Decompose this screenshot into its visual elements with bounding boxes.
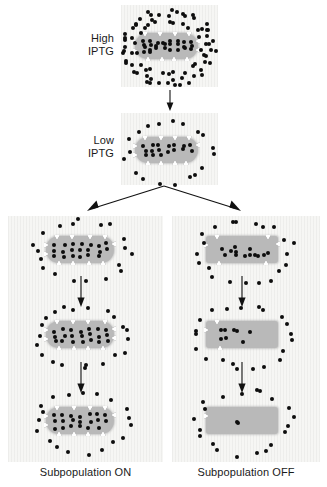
iptg-dot-external bbox=[201, 133, 205, 137]
iptg-dot-internal bbox=[61, 419, 65, 423]
iptg-dot-internal bbox=[97, 426, 101, 430]
iptg-dot-external bbox=[211, 146, 215, 150]
permease-transporter-icon bbox=[85, 320, 91, 325]
permease-transporter-icon bbox=[44, 336, 49, 342]
iptg-dot-external bbox=[289, 332, 293, 336]
iptg-dot-external bbox=[139, 31, 143, 35]
iptg-dot-external bbox=[284, 263, 288, 267]
iptg-dot-external bbox=[104, 277, 108, 281]
iptg-dot-external bbox=[171, 119, 175, 123]
permease-transporter-icon bbox=[54, 320, 60, 325]
permease-transporter-icon bbox=[70, 260, 76, 265]
iptg-dot-external bbox=[170, 8, 174, 12]
iptg-dot-external bbox=[282, 238, 286, 242]
iptg-dot-internal bbox=[54, 339, 58, 343]
iptg-dot-external bbox=[178, 83, 182, 87]
permease-transporter-icon bbox=[159, 56, 165, 61]
permease-transporter-icon bbox=[142, 136, 148, 141]
iptg-dot-external bbox=[66, 450, 70, 454]
iptg-dot-external bbox=[126, 337, 130, 341]
iptg-dot-external bbox=[37, 418, 41, 422]
permease-transporter-icon bbox=[100, 431, 106, 436]
iptg-dot-external bbox=[144, 68, 148, 72]
iptg-dot-external bbox=[39, 404, 43, 408]
iptg-dot-external bbox=[123, 32, 127, 36]
iptg-dot-external bbox=[122, 157, 126, 161]
iptg-dot-internal bbox=[89, 243, 93, 247]
permease-transporter-icon bbox=[102, 320, 108, 325]
iptg-dot-external bbox=[137, 130, 141, 134]
permease-transporter-icon bbox=[54, 406, 60, 411]
iptg-dot-external bbox=[225, 307, 229, 311]
iptg-dot-external bbox=[157, 81, 161, 85]
permease-transporter-icon bbox=[102, 235, 108, 240]
iptg-dot-internal bbox=[182, 40, 186, 44]
iptg-dot-internal bbox=[52, 249, 56, 253]
iptg-dot-external bbox=[109, 398, 113, 402]
iptg-dot-external bbox=[124, 61, 128, 65]
iptg-dot-external bbox=[99, 223, 103, 227]
panel-subpopulation-off bbox=[172, 216, 320, 462]
iptg-dot-external bbox=[208, 61, 212, 65]
on-generation-arrow-1 bbox=[74, 276, 88, 308]
iptg-dot-internal bbox=[97, 340, 101, 344]
permease-transporter-icon bbox=[71, 431, 77, 436]
iptg-dot-external bbox=[41, 266, 45, 270]
iptg-dot-external bbox=[36, 249, 40, 253]
panel-low-iptg bbox=[121, 113, 218, 185]
iptg-dot-internal bbox=[106, 339, 110, 343]
permease-transporter-icon bbox=[186, 32, 192, 37]
iptg-dot-external bbox=[207, 266, 211, 270]
iptg-dot-internal bbox=[241, 340, 245, 344]
iptg-dot-external bbox=[183, 14, 187, 18]
iptg-dot-external bbox=[255, 451, 259, 455]
iptg-dot-internal bbox=[232, 328, 236, 332]
iptg-dot-external bbox=[290, 338, 294, 342]
iptg-dot-external bbox=[40, 353, 44, 357]
permease-transporter-icon bbox=[100, 260, 106, 265]
iptg-dot-external bbox=[211, 442, 215, 446]
iptg-dot-external bbox=[204, 42, 208, 46]
permease-transporter-icon bbox=[217, 345, 223, 350]
iptg-dot-external bbox=[95, 392, 99, 396]
iptg-dot-external bbox=[123, 246, 127, 250]
permease-transporter-icon bbox=[44, 251, 49, 257]
iptg-dot-external bbox=[292, 415, 296, 419]
permease-transporter-icon bbox=[171, 56, 177, 61]
iptg-dot-external bbox=[228, 280, 232, 284]
iptg-dot-internal bbox=[151, 143, 155, 147]
label-high-iptg: HighIPTG bbox=[58, 32, 114, 57]
iptg-dot-internal bbox=[266, 251, 270, 255]
iptg-dot-external bbox=[281, 349, 285, 353]
iptg-dot-external bbox=[194, 347, 198, 351]
iptg-dot-internal bbox=[157, 148, 161, 152]
permease-transporter-icon bbox=[265, 235, 271, 240]
iptg-dot-external bbox=[205, 34, 209, 38]
on-generation-arrow-2 bbox=[74, 362, 88, 394]
iptg-dot-external bbox=[121, 51, 125, 55]
iptg-dot-internal bbox=[78, 420, 82, 424]
iptg-dot-external bbox=[71, 308, 75, 312]
iptg-dot-external bbox=[145, 80, 149, 84]
iptg-dot-internal bbox=[70, 334, 74, 338]
iptg-dot-external bbox=[121, 325, 125, 329]
permease-transporter-icon bbox=[145, 160, 151, 165]
iptg-dot-external bbox=[200, 73, 204, 77]
iptg-dot-external bbox=[175, 10, 179, 14]
permease-transporter-icon bbox=[133, 143, 138, 149]
off-generation-arrow-1 bbox=[235, 276, 249, 308]
iptg-dot-internal bbox=[79, 330, 83, 334]
iptg-dot-external bbox=[192, 417, 196, 421]
iptg-dot-external bbox=[196, 28, 200, 32]
iptg-dot-external bbox=[257, 281, 261, 285]
iptg-dot-external bbox=[188, 175, 192, 179]
permease-transporter-icon bbox=[186, 136, 192, 141]
iptg-dot-external bbox=[278, 358, 282, 362]
iptg-dot-external bbox=[139, 63, 143, 67]
permease-transporter-icon bbox=[172, 136, 178, 141]
iptg-dot-external bbox=[60, 363, 64, 367]
permease-transporter-icon bbox=[195, 38, 200, 44]
permease-transporter-icon bbox=[71, 406, 77, 411]
iptg-dot-internal bbox=[53, 419, 57, 423]
iptg-dot-external bbox=[180, 76, 184, 80]
